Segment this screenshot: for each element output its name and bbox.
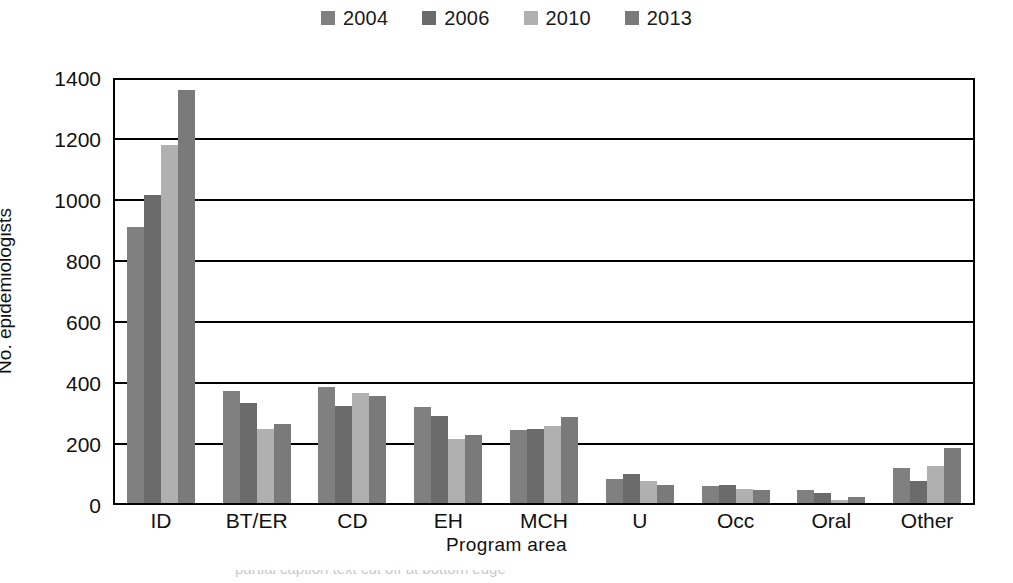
legend-label: 2013 [647, 8, 692, 28]
x-tick-label-BT-ER: BT/ER [226, 509, 288, 533]
y-tick-label: 1000 [54, 190, 101, 211]
x-tick-label-MCH: MCH [520, 509, 568, 533]
x-tick-label-Occ: Occ [717, 509, 754, 533]
x-tick-label-CD: CD [337, 509, 367, 533]
chart-legend: 2004200620102013 [0, 8, 1013, 28]
x-tick-label-EH: EH [434, 509, 463, 533]
y-tick-label: 600 [66, 312, 101, 333]
y-axis: No. epidemiologists 02004006008001000120… [0, 0, 113, 583]
x-tick-label-Other: Other [901, 509, 954, 533]
y-tick-label: 1400 [54, 68, 101, 89]
x-tick-label-Oral: Oral [811, 509, 851, 533]
y-tick-label: 0 [89, 495, 101, 516]
legend-label: 2004 [343, 8, 388, 28]
y-tick-label: 800 [66, 251, 101, 272]
legend-label: 2006 [444, 8, 489, 28]
legend-entry-2010: 2010 [524, 8, 591, 28]
legend-swatch-square [321, 11, 335, 25]
x-tick-label-ID: ID [150, 509, 171, 533]
caption-partial-text: partial caption text cut off at bottom e… [235, 570, 506, 576]
legend-entry-2004: 2004 [321, 8, 388, 28]
legend-entry-2013: 2013 [625, 8, 692, 28]
plot-frame-border [113, 78, 975, 505]
x-tick-label-U: U [632, 509, 647, 533]
plot-area [113, 78, 975, 505]
legend-entry-2006: 2006 [422, 8, 489, 28]
legend-label: 2010 [546, 8, 591, 28]
bar-chart-figure: 2004200620102013 No. epidemiologists 020… [0, 0, 1013, 583]
y-axis-title: No. epidemiologists [0, 208, 14, 374]
y-tick-label: 1200 [54, 129, 101, 150]
legend-swatch-square [524, 11, 538, 25]
legend-swatch-square [625, 11, 639, 25]
caption-strip: partial caption text cut off at bottom e… [0, 570, 1013, 583]
y-tick-label: 200 [66, 434, 101, 455]
y-tick-label: 400 [66, 373, 101, 394]
x-axis-title: Program area [0, 534, 1013, 556]
legend-swatch-square [422, 11, 436, 25]
